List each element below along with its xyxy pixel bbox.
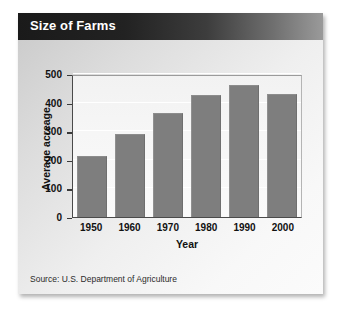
y-axis-tick [67, 132, 72, 133]
x-axis-tick-label: 2000 [261, 222, 305, 233]
gridline [73, 73, 301, 74]
bar-chart: Average acreage 0100200300400500 1950196… [18, 40, 323, 294]
bar[interactable] [267, 94, 297, 217]
bar-slot [267, 76, 297, 217]
y-axis-tick-label: 500 [30, 69, 62, 80]
bar-series [73, 76, 301, 217]
bar[interactable] [191, 95, 221, 217]
x-axis-label: Year [72, 238, 302, 250]
page-title: Size of Farms [30, 18, 116, 33]
y-axis-tick-label: 200 [30, 155, 62, 166]
bar-slot [191, 76, 221, 217]
y-axis-tick-label: 0 [30, 212, 62, 223]
bar[interactable] [153, 113, 183, 217]
bar-slot [153, 76, 183, 217]
card-title-bar: Size of Farms [18, 13, 323, 40]
y-axis-tick [67, 161, 72, 162]
bar[interactable] [229, 85, 259, 217]
y-axis-tick-label: 400 [30, 98, 62, 109]
source-note: Source: U.S. Department of Agriculture [30, 274, 177, 284]
plot-area [72, 75, 302, 218]
y-axis-tick [67, 75, 72, 76]
bar[interactable] [77, 156, 107, 217]
bar-slot [77, 76, 107, 217]
y-axis-tick [67, 218, 72, 219]
y-axis-tick [67, 189, 72, 190]
chart-card: Size of Farms Average acreage 0100200300… [18, 13, 323, 294]
y-axis-tick [67, 104, 72, 105]
y-axis-tick-label: 300 [30, 126, 62, 137]
bar-slot [115, 76, 145, 217]
bar[interactable] [115, 134, 145, 217]
bar-slot [229, 76, 259, 217]
y-axis-tick-label: 100 [30, 183, 62, 194]
